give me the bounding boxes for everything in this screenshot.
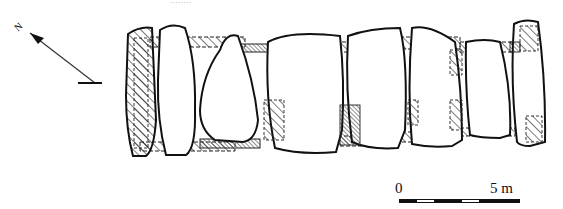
svg-text:N: N	[12, 20, 25, 33]
scale-end-label: 5 m	[490, 180, 513, 197]
scale-start-label: 0	[395, 180, 403, 197]
scale-bar	[399, 199, 520, 203]
tomb-plan-drawing: N	[0, 0, 563, 209]
north-arrow-icon: N	[12, 20, 102, 83]
